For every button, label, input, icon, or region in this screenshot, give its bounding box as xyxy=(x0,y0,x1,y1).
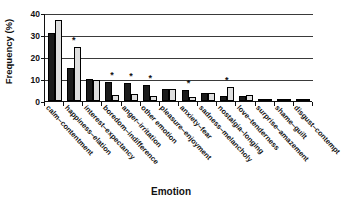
x-axis-category-labels: calm–contentmenthappiness–elationinteres… xyxy=(44,104,312,182)
bar-light xyxy=(55,20,62,101)
x-tick xyxy=(312,102,313,106)
bar-group: * xyxy=(179,13,198,101)
bar-dark xyxy=(220,96,227,101)
bar-dark xyxy=(182,90,189,101)
bar-light xyxy=(284,99,291,101)
bar-light xyxy=(227,87,234,101)
bar-dark xyxy=(277,99,284,101)
bar-light xyxy=(265,99,272,101)
significance-marker: * xyxy=(225,76,229,85)
bar-group xyxy=(160,13,179,101)
bar-light xyxy=(303,99,310,101)
bar-dark xyxy=(143,85,150,101)
significance-marker: * xyxy=(149,74,153,83)
bar-group: * xyxy=(102,13,121,101)
bar-group: * xyxy=(217,13,236,101)
bar-series-container: ****** xyxy=(45,13,313,101)
bar-light xyxy=(208,93,215,101)
y-axis-title: Frequency (%) xyxy=(2,0,16,102)
bar-light xyxy=(131,94,138,101)
bar-light xyxy=(150,96,157,101)
bar-group xyxy=(45,13,64,101)
bar-group: * xyxy=(64,13,83,101)
bar-light xyxy=(189,97,196,101)
y-tick-label: 0 xyxy=(35,98,40,107)
significance-marker: * xyxy=(72,36,76,45)
y-tick-label: 40 xyxy=(31,10,40,19)
y-axis-title-text: Frequency (%) xyxy=(4,18,15,83)
bar-light xyxy=(74,47,81,101)
significance-marker: * xyxy=(187,79,191,88)
bar-group: * xyxy=(141,13,160,101)
bar-group xyxy=(236,13,255,101)
bar-group xyxy=(275,13,294,101)
bar-light xyxy=(112,95,119,101)
bar-group: * xyxy=(122,13,141,101)
bar-dark xyxy=(48,33,55,101)
bar-dark xyxy=(86,79,93,101)
y-tick-label: 20 xyxy=(31,54,40,63)
chart-figure: Frequency (%) 010203040 ****** calm–cont… xyxy=(0,0,342,210)
bar-light xyxy=(246,95,253,101)
bar-dark xyxy=(124,83,131,101)
bar-group xyxy=(256,13,275,101)
bar-dark xyxy=(258,99,265,101)
y-tick-label: 10 xyxy=(31,76,40,85)
bar-group xyxy=(198,13,217,101)
bar-light xyxy=(169,89,176,101)
bar-light xyxy=(93,80,100,101)
bar-group xyxy=(294,13,313,101)
bar-dark xyxy=(105,82,112,101)
bar-dark xyxy=(201,93,208,101)
significance-marker: * xyxy=(129,72,133,81)
bar-group xyxy=(83,13,102,101)
y-tick-label: 30 xyxy=(31,32,40,41)
x-axis-title: Emotion xyxy=(0,186,342,197)
bar-dark xyxy=(296,99,303,101)
bar-dark xyxy=(162,89,169,101)
bar-dark xyxy=(239,96,246,101)
plot-area: 010203040 ****** xyxy=(44,14,312,102)
bar-dark xyxy=(67,68,74,101)
significance-marker: * xyxy=(110,71,114,80)
